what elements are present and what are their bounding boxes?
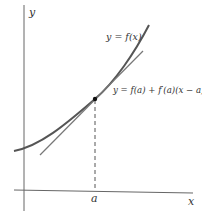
tangency-point <box>93 97 97 101</box>
y-axis-label: y <box>28 6 36 19</box>
diagram-canvas: y x a y = f(x) y = f(a) + f′(a)(x − a) <box>0 0 202 219</box>
x-axis-label: x <box>188 195 195 208</box>
point-a-label: a <box>91 192 98 205</box>
diagram-svg: y x a y = f(x) y = f(a) + f′(a)(x − a) <box>0 0 202 219</box>
x-axis <box>14 190 193 193</box>
tangent-label: y = f(a) + f′(a)(x − a) <box>112 85 202 95</box>
curve-label: y = f(x) <box>105 31 142 42</box>
tangent-line <box>40 51 143 155</box>
